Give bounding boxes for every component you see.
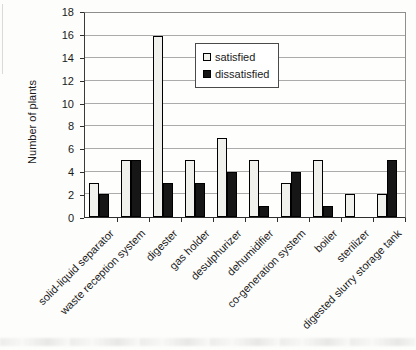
x-tick-8 xyxy=(341,218,342,222)
y-tick-label-8: 8 xyxy=(44,119,74,133)
x-tick-6 xyxy=(277,218,278,222)
y-tick-label-18: 18 xyxy=(44,5,74,19)
legend: satisfied dissatisfied xyxy=(195,43,279,88)
bar-dissatisfied-co-generation system xyxy=(291,172,301,217)
bar-satisfied-co-generation system xyxy=(281,183,291,217)
x-tick-10 xyxy=(405,218,406,222)
legend-item-dissatisfied: dissatisfied xyxy=(203,68,278,80)
bar-satisfied-desulphurizer xyxy=(217,138,227,217)
y-tick-18 xyxy=(80,12,84,13)
x-tick-1 xyxy=(117,218,118,222)
x-tick-3 xyxy=(181,218,182,222)
bar-satisfied-digested slurry storage tank xyxy=(377,194,387,217)
bar-dissatisfied-solid-liquid separator xyxy=(99,194,109,217)
legend-label-satisfied: satisfied xyxy=(215,51,255,63)
y-tick-8 xyxy=(80,126,84,127)
bar-satisfied-boiler xyxy=(313,160,323,217)
satisfied-swatch xyxy=(203,53,211,61)
y-tick-label-4: 4 xyxy=(44,165,74,179)
bar-satisfied-sterilizer xyxy=(345,194,355,217)
gridline-6 xyxy=(85,148,405,149)
y-tick-6 xyxy=(80,149,84,150)
bar-satisfied-dehumidifier xyxy=(249,160,259,217)
bar-dissatisfied-dehumidifier xyxy=(259,206,269,217)
y-tick-label-16: 16 xyxy=(44,28,74,42)
y-tick-label-12: 12 xyxy=(44,74,74,88)
x-tick-4 xyxy=(213,218,214,222)
bar-satisfied-gas holder xyxy=(185,160,195,217)
y-tick-label-6: 6 xyxy=(44,142,74,156)
dissatisfied-swatch xyxy=(203,70,211,78)
bar-dissatisfied-boiler xyxy=(323,206,333,217)
x-tick-7 xyxy=(309,218,310,222)
bar-dissatisfied-digested slurry storage tank xyxy=(387,160,397,217)
bar-dissatisfied-waste reception system xyxy=(131,160,141,217)
bar-dissatisfied-desulphurizer xyxy=(227,172,237,217)
gridline-10 xyxy=(85,103,405,104)
legend-label-dissatisfied: dissatisfied xyxy=(215,68,269,80)
y-axis-title: Number of plants xyxy=(26,80,38,164)
bar-satisfied-solid-liquid separator xyxy=(89,183,99,217)
y-tick-label-10: 10 xyxy=(44,97,74,111)
y-tick-14 xyxy=(80,58,84,59)
bar-satisfied-digester xyxy=(153,36,163,217)
y-tick-10 xyxy=(80,104,84,105)
y-tick-label-14: 14 xyxy=(44,51,74,65)
bar-chart-figure: Number of plants satisfied dissatisfied … xyxy=(0,0,416,350)
x-tick-9 xyxy=(373,218,374,222)
x-tick-5 xyxy=(245,218,246,222)
scan-artifact-left xyxy=(2,4,3,74)
bar-dissatisfied-digester xyxy=(163,183,173,217)
y-tick-12 xyxy=(80,81,84,82)
gridline-8 xyxy=(85,125,405,126)
y-tick-4 xyxy=(80,172,84,173)
x-category-label-8: boiler xyxy=(312,227,340,255)
y-tick-label-0: 0 xyxy=(44,211,74,225)
y-tick-16 xyxy=(80,35,84,36)
scan-artifact-bottom xyxy=(0,338,416,346)
y-tick-label-2: 2 xyxy=(44,188,74,202)
bar-dissatisfied-gas holder xyxy=(195,183,205,217)
y-tick-2 xyxy=(80,195,84,196)
gridline-16 xyxy=(85,35,405,36)
bar-satisfied-waste reception system xyxy=(121,160,131,217)
legend-item-satisfied: satisfied xyxy=(203,51,278,63)
x-tick-2 xyxy=(149,218,150,222)
y-tick-0 xyxy=(80,218,84,219)
